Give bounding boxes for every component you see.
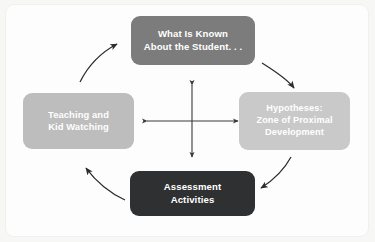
- arrow-teaching-to-known: [80, 44, 117, 82]
- assessment-activities-node[interactable]: Assessment Activities: [130, 171, 255, 216]
- arrow-hypotheses-to-assessment: [261, 157, 291, 188]
- teaching-line-1: Teaching and: [48, 109, 109, 121]
- hypotheses-node[interactable]: Hypotheses: Zone of Proximal Development: [239, 92, 350, 150]
- what-is-known-line-1: What Is Known: [144, 28, 243, 40]
- hypotheses-line-3: Development: [256, 127, 332, 139]
- assessment-line-2: Activities: [164, 194, 222, 206]
- assessment-line-1: Assessment: [164, 181, 222, 193]
- teaching-line-2: Kid Watching: [48, 121, 109, 133]
- hypotheses-line-1: Hypotheses:: [256, 103, 332, 115]
- arrow-known-to-hypotheses: [262, 63, 294, 88]
- what-is-known-line-2: About the Student. . .: [144, 41, 243, 53]
- hypotheses-line-2: Zone of Proximal: [256, 115, 332, 127]
- arrow-assessment-to-teaching: [86, 168, 125, 200]
- diagram-canvas: What Is Known About the Student. . . Hyp…: [0, 0, 375, 242]
- what-is-known-node[interactable]: What Is Known About the Student. . .: [131, 16, 255, 65]
- teaching-kid-watching-node[interactable]: Teaching and Kid Watching: [23, 93, 134, 149]
